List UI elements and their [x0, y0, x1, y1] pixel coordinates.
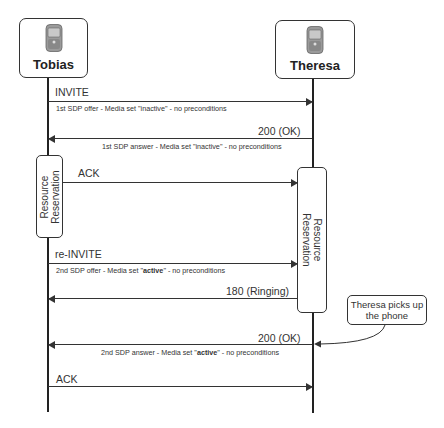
message-arrow-ack-2 [48, 386, 312, 387]
message-label: 200 (OK) [258, 332, 301, 344]
message-sdp-note: 2nd SDP answer - Media set "active" - no… [101, 348, 279, 357]
message-arrow-200-ok-2 [49, 344, 312, 345]
callout-connector [0, 0, 444, 428]
message-label: ACK [56, 373, 78, 385]
